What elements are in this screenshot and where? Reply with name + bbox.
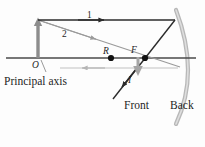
- ray-2-label: 2: [62, 30, 67, 40]
- ray-2-direction-arrow: [38, 20, 96, 39]
- figure-canvas: O Principal axis 1 2 R F I Front Back: [0, 0, 205, 147]
- focal-point: [142, 55, 148, 61]
- ray-1-label: 1: [87, 11, 92, 21]
- front-side-label: Front: [124, 100, 149, 112]
- center-of-curvature-label: R: [103, 47, 109, 57]
- object-arrow-head: [34, 18, 42, 27]
- bottom-toolbar: [0, 126, 205, 147]
- image-point-label: I: [128, 76, 131, 86]
- focal-point-label: F: [131, 46, 137, 56]
- principal-axis-label: Principal axis: [4, 76, 67, 88]
- object-point-label: O: [32, 61, 39, 71]
- back-side-label: Back: [170, 100, 194, 112]
- ray-diagram-svg: [0, 0, 205, 147]
- principal-axis-leader-line: [41, 60, 46, 72]
